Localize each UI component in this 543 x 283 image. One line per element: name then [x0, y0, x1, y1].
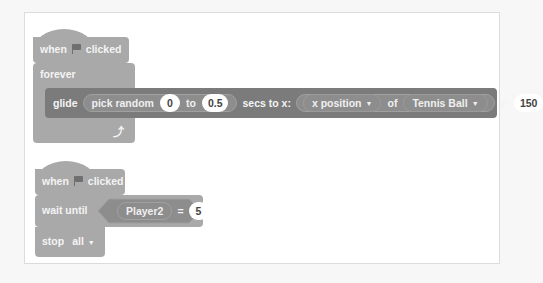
when-label: when: [40, 43, 67, 55]
of-label: of: [387, 97, 397, 109]
player2-variable-reporter[interactable]: Player2: [117, 202, 172, 220]
secs-to-x-label: secs to x:: [242, 97, 290, 109]
equals-label: =: [177, 205, 183, 217]
loop-arrow-icon: ⤴: [113, 123, 124, 139]
glide-block[interactable]: glide pick random 0 to 0.5 secs to x: x …: [45, 88, 497, 118]
when-flag-clicked-block-2[interactable]: when clicked: [35, 169, 125, 195]
attribute-value: x position: [312, 97, 362, 109]
wait-until-block[interactable]: wait until Player2 = 5: [35, 195, 203, 227]
stop-block[interactable]: stop all▼: [35, 227, 105, 257]
clicked-label: clicked: [86, 43, 122, 55]
stop-option-value: all: [72, 235, 84, 247]
caret-down-icon: ▼: [366, 100, 373, 107]
green-flag-icon: [72, 44, 81, 54]
pick-random-label: pick random: [92, 97, 154, 109]
green-flag-icon: [74, 176, 83, 186]
wait-until-label: wait until: [42, 204, 88, 216]
y-label: y:: [500, 97, 509, 109]
sprite-dropdown[interactable]: Tennis Ball▼: [403, 94, 487, 112]
random-from-input[interactable]: 0: [160, 94, 180, 112]
code-canvas[interactable]: when clicked forever ⤴ glide pick random…: [24, 12, 500, 264]
glide-label: glide: [53, 97, 78, 109]
compare-value-input[interactable]: 5: [189, 202, 209, 220]
clicked-label: clicked: [88, 175, 124, 187]
when-flag-clicked-block-1[interactable]: when clicked: [33, 37, 129, 63]
random-to-input[interactable]: 0.5: [202, 94, 229, 112]
stop-label: stop: [42, 235, 64, 247]
when-label: when: [42, 175, 69, 187]
stop-option-dropdown[interactable]: all▼: [72, 235, 95, 247]
attribute-dropdown[interactable]: x position▼: [303, 94, 382, 112]
pick-random-reporter[interactable]: pick random 0 to 0.5: [83, 94, 238, 112]
caret-down-icon: ▼: [472, 100, 479, 107]
sprite-value: Tennis Ball: [412, 97, 467, 109]
to-label: to: [186, 97, 196, 109]
caret-down-icon: ▼: [88, 239, 95, 246]
forever-label: forever: [40, 68, 76, 80]
y-input[interactable]: 150: [514, 94, 543, 112]
of-sensing-reporter[interactable]: x position▼ of Tennis Ball▼: [296, 94, 495, 112]
